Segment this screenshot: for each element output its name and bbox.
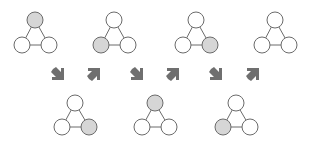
node-top bbox=[67, 95, 83, 111]
node-top-highlighted bbox=[27, 12, 43, 28]
node-bottom-right bbox=[41, 37, 57, 53]
node-top-highlighted bbox=[147, 95, 163, 111]
node-bottom-right-highlighted bbox=[202, 37, 218, 53]
triangle-graph-t2 bbox=[93, 12, 136, 53]
state-transition-diagram bbox=[0, 0, 309, 142]
node-bottom-left-highlighted bbox=[93, 37, 109, 53]
node-bottom-right-highlighted bbox=[81, 119, 97, 135]
node-bottom-left bbox=[175, 37, 191, 53]
arrow-up-right-icon bbox=[246, 68, 259, 81]
node-bottom-left bbox=[134, 119, 150, 135]
triangle-graph-b2 bbox=[134, 95, 177, 135]
arrow-up-right-icon bbox=[166, 68, 179, 81]
triangle-graph-t4 bbox=[254, 12, 297, 53]
node-top bbox=[188, 12, 204, 28]
node-bottom-left bbox=[54, 119, 70, 135]
arrow-down-right-icon bbox=[51, 67, 64, 80]
arrow-up-right-icon bbox=[87, 68, 100, 81]
node-top bbox=[106, 12, 122, 28]
node-bottom-right bbox=[120, 37, 136, 53]
arrow-down-right-icon bbox=[130, 67, 143, 80]
node-bottom-left-highlighted bbox=[215, 119, 231, 135]
arrow-down-right-icon bbox=[209, 67, 222, 80]
triangle-graph-t3 bbox=[175, 12, 218, 53]
node-bottom-left bbox=[254, 37, 270, 53]
node-top bbox=[228, 95, 244, 111]
triangle-graph-t1 bbox=[14, 12, 57, 53]
node-bottom-right bbox=[281, 37, 297, 53]
node-bottom-left bbox=[14, 37, 30, 53]
triangle-graph-b1 bbox=[54, 95, 97, 135]
node-bottom-right bbox=[161, 119, 177, 135]
triangle-graph-b3 bbox=[215, 95, 258, 135]
node-bottom-right bbox=[242, 119, 258, 135]
node-top bbox=[267, 12, 283, 28]
